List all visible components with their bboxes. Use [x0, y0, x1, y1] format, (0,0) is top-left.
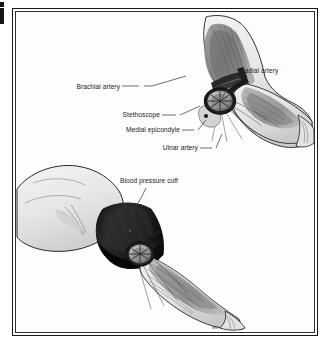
cropped-glyph-fragment: [0, 8, 4, 24]
illustration-root: Brachial artery Radial artery Stethoscop…: [0, 0, 330, 344]
label-medial-epicondyle: Medial epicondyle: [126, 127, 180, 134]
label-stethoscope: Stethoscope: [123, 112, 160, 119]
upper-arm-view: [199, 16, 314, 148]
illustration-canvas: [15, 11, 315, 333]
lower-arm-view: [17, 165, 245, 330]
label-blood-pressure-cuff: Blood pressure cuff: [120, 178, 178, 185]
artist-signature: MC: [212, 325, 219, 330]
label-radial-artery: Radial artery: [240, 68, 278, 75]
label-brachial-artery: Brachial artery: [76, 84, 120, 91]
label-ulnar-artery: Ulnar artery: [163, 145, 198, 152]
